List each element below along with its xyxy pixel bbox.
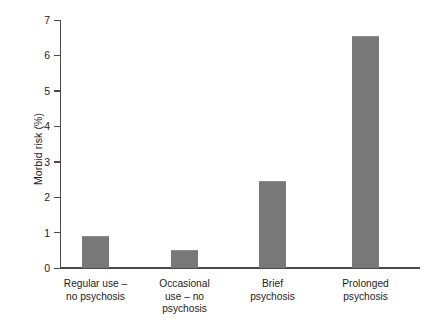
plot-area xyxy=(60,20,420,268)
category-label-line: Prolonged xyxy=(314,278,418,291)
category-label-line: psychosis xyxy=(314,291,418,304)
y-axis-tick-label: 5 xyxy=(28,86,50,97)
category-label-line: psychosis xyxy=(221,291,325,304)
category-label-line: psychosis xyxy=(133,303,237,316)
x-axis-category-label: Prolongedpsychosis xyxy=(314,278,418,303)
y-axis-tick-label: 0 xyxy=(28,263,50,274)
y-axis-tick-label: 4 xyxy=(28,121,50,132)
y-axis-tick-label: 6 xyxy=(28,50,50,61)
bar-chart-figure: Morbid risk (%) 01234567 Regular use –no… xyxy=(0,0,432,335)
y-axis-tick-label: 2 xyxy=(28,192,50,203)
x-axis-category-label: Briefpsychosis xyxy=(221,278,325,303)
bar xyxy=(259,181,286,268)
y-axis-tick-label: 7 xyxy=(28,15,50,26)
bar xyxy=(352,36,379,268)
bar xyxy=(171,250,198,268)
y-axis-tick-label: 3 xyxy=(28,157,50,168)
bar xyxy=(82,236,109,268)
category-label-line: Brief xyxy=(221,278,325,291)
y-axis-tick-label: 1 xyxy=(28,228,50,239)
